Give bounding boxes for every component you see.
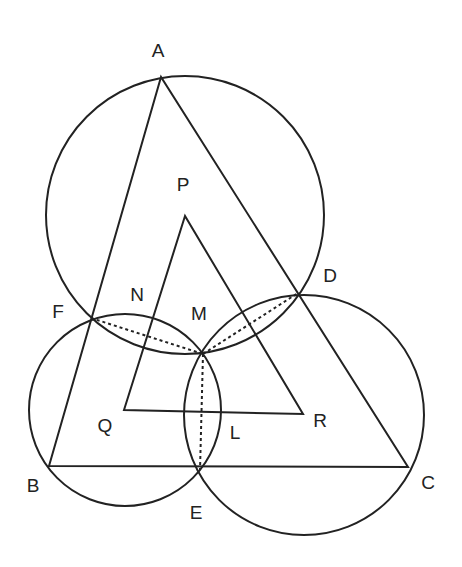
triangles-group bbox=[49, 77, 408, 467]
label-e: E bbox=[190, 503, 203, 522]
triangle-pqr bbox=[124, 216, 303, 414]
label-d: D bbox=[323, 266, 337, 285]
label-a: A bbox=[152, 41, 165, 60]
label-b: B bbox=[27, 476, 40, 495]
label-p: P bbox=[177, 175, 190, 194]
label-m: M bbox=[191, 304, 207, 323]
label-r: R bbox=[313, 411, 327, 430]
triangle-abc bbox=[49, 77, 408, 467]
dashed-md bbox=[203, 293, 298, 354]
label-c: C bbox=[421, 473, 435, 492]
geometry-diagram: A P D N F M Q R L B E C bbox=[0, 0, 462, 567]
label-l: L bbox=[230, 423, 241, 442]
diagram-figure bbox=[0, 0, 462, 567]
label-n: N bbox=[130, 285, 144, 304]
label-q: Q bbox=[98, 416, 113, 435]
label-f: F bbox=[52, 302, 64, 321]
